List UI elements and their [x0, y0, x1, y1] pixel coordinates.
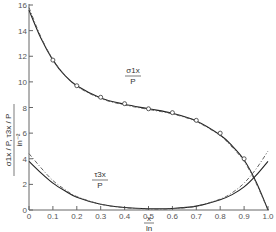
x-tick-label: 0.6: [167, 212, 179, 221]
x-tick-label: 1.0: [262, 212, 274, 221]
tau-3x-annotation: τ3x P: [92, 170, 108, 190]
data-point-marker: [218, 131, 222, 135]
y-tick-label: 10: [18, 78, 27, 87]
x-tick-label: 0.7: [191, 212, 203, 221]
series-group: [29, 8, 268, 210]
series-3x-p-solid: [29, 161, 268, 209]
y-tick-label: 8: [23, 104, 28, 113]
data-point-marker: [75, 84, 79, 88]
x-axis-label-denominator: ln: [146, 224, 152, 232]
y-axis-label: σ1x / P, τ3x / P in⁻²: [4, 104, 24, 176]
x-axis-label-numerator: x: [147, 214, 151, 223]
tau-annotation-numerator: τ3x: [94, 170, 106, 179]
tau-annotation-denominator: P: [97, 181, 102, 190]
y-tick-label: 4: [23, 155, 28, 164]
y-tick-label: 12: [18, 52, 27, 61]
sigma-annotation-numerator: σ1x: [126, 66, 139, 75]
y-tick-label: 14: [18, 27, 27, 36]
sigma-1x-annotation: σ1x P: [125, 66, 141, 86]
y-ticks: 0246810121416: [18, 1, 33, 215]
data-point-marker: [99, 95, 103, 99]
data-point-marker: [51, 58, 55, 62]
series-3x-p-dashed: [29, 151, 268, 209]
data-point-marker: [194, 118, 198, 122]
x-tick-label: 0.2: [71, 212, 83, 221]
x-tick-label: 0.1: [47, 212, 59, 221]
stress-distribution-chart: 0246810121416 00.10.20.30.40.50.60.70.80…: [0, 0, 276, 232]
sigma-annotation-denominator: P: [130, 77, 135, 86]
y-axis-label-denominator: in⁻²: [15, 133, 24, 146]
data-point-marker: [123, 102, 127, 106]
x-tick-label: 0.3: [95, 212, 107, 221]
x-tick-label: 0.9: [239, 212, 251, 221]
data-point-marker: [242, 157, 246, 161]
x-tick-label: 0.4: [119, 212, 131, 221]
data-point-marker: [170, 111, 174, 115]
x-tick-label: 0.8: [215, 212, 227, 221]
data-point-marker: [147, 107, 151, 111]
x-tick-label: 0: [27, 212, 32, 221]
y-tick-label: 16: [18, 1, 27, 10]
y-tick-label: 2: [23, 180, 28, 189]
y-axis-label-numerator: σ1x / P, τ3x / P: [4, 114, 13, 166]
